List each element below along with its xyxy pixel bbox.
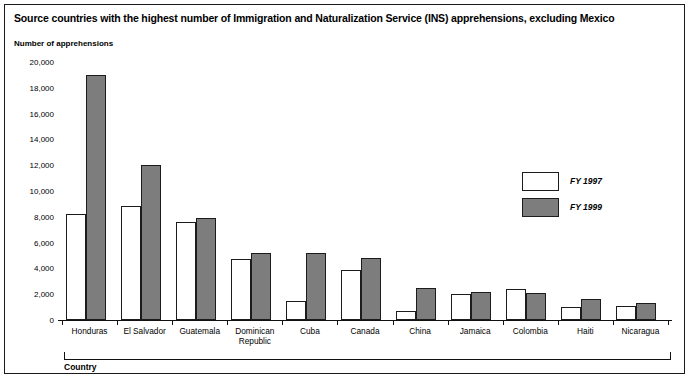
bar-china-fy1999 bbox=[416, 288, 436, 320]
y-axis-tick-label: 8,000 bbox=[12, 212, 54, 221]
bar-guatemala-fy1999 bbox=[196, 218, 216, 320]
bar-canada-fy1999 bbox=[361, 258, 381, 320]
x-axis-tick bbox=[62, 321, 63, 325]
bar-honduras-fy1999 bbox=[86, 75, 106, 320]
x-axis-category-label: Canada bbox=[337, 326, 392, 336]
y-axis-tick-label: 2,000 bbox=[12, 290, 54, 299]
x-axis-category-label: Dominican Republic bbox=[227, 326, 282, 346]
bar-dominican-republic-fy1999 bbox=[251, 253, 271, 320]
x-axis-title: Country bbox=[64, 362, 97, 372]
bar-jamaica-fy1997 bbox=[451, 294, 471, 320]
bar-haiti-fy1999 bbox=[581, 299, 601, 320]
y-axis-tick-label: 14,000 bbox=[12, 135, 54, 144]
x-axis-tick bbox=[227, 321, 228, 325]
x-axis-category-label: El Salvador bbox=[117, 326, 172, 336]
x-axis-category-label: Colombia bbox=[503, 326, 558, 336]
legend-label-fy1997: FY 1997 bbox=[570, 176, 602, 186]
bar-china-fy1997 bbox=[396, 311, 416, 320]
bar-el-salvador-fy1999 bbox=[141, 165, 161, 320]
x-axis-category-label: Haiti bbox=[558, 326, 613, 336]
bar-nicaragua-fy1997 bbox=[616, 306, 636, 320]
x-axis-category-label: Guatemala bbox=[172, 326, 227, 336]
x-axis-tick bbox=[503, 321, 504, 325]
x-axis-tick bbox=[668, 321, 669, 325]
chart-legend: FY 1997 FY 1999 bbox=[522, 172, 642, 224]
x-axis-tick bbox=[117, 321, 118, 325]
y-axis-tick-label: 10,000 bbox=[12, 187, 54, 196]
y-axis-tick-labels: 02,0004,0006,0008,00010,00012,00014,0001… bbox=[10, 0, 54, 384]
y-axis-tick-label: 6,000 bbox=[12, 238, 54, 247]
y-axis-tick-label: 4,000 bbox=[12, 264, 54, 273]
y-axis-tick-label: 12,000 bbox=[12, 161, 54, 170]
bar-haiti-fy1997 bbox=[561, 307, 581, 320]
bar-canada-fy1997 bbox=[341, 270, 361, 320]
x-axis-tick bbox=[448, 321, 449, 325]
x-axis-line bbox=[58, 320, 672, 321]
bar-colombia-fy1997 bbox=[506, 289, 526, 320]
x-axis-category-label: Jamaica bbox=[448, 326, 503, 336]
bar-nicaragua-fy1999 bbox=[636, 303, 656, 320]
x-axis-bracket bbox=[64, 352, 671, 360]
bar-guatemala-fy1997 bbox=[176, 222, 196, 320]
legend-item-fy1997: FY 1997 bbox=[522, 172, 642, 198]
bar-el-salvador-fy1997 bbox=[121, 206, 141, 320]
bar-cuba-fy1997 bbox=[286, 301, 306, 320]
bar-colombia-fy1999 bbox=[526, 293, 546, 320]
x-axis-tick bbox=[558, 321, 559, 325]
chart-page: Source countries with the highest number… bbox=[0, 0, 689, 384]
bar-jamaica-fy1999 bbox=[471, 292, 491, 320]
x-axis-category-label: Honduras bbox=[62, 326, 117, 336]
legend-label-fy1999: FY 1999 bbox=[570, 202, 602, 212]
x-axis-category-label: China bbox=[393, 326, 448, 336]
x-axis-tick bbox=[172, 321, 173, 325]
legend-swatch-fy1999 bbox=[522, 198, 559, 217]
bar-dominican-republic-fy1997 bbox=[231, 259, 251, 320]
x-axis-tick bbox=[613, 321, 614, 325]
x-axis-tick bbox=[393, 321, 394, 325]
y-axis-tick-label: 18,000 bbox=[12, 83, 54, 92]
x-axis-tick bbox=[337, 321, 338, 325]
y-axis-tick-label: 16,000 bbox=[12, 109, 54, 118]
legend-item-fy1999: FY 1999 bbox=[522, 198, 642, 224]
x-axis-tick bbox=[282, 321, 283, 325]
x-axis-category-label: Nicaragua bbox=[613, 326, 668, 336]
chart-title: Source countries with the highest number… bbox=[14, 12, 614, 24]
bar-cuba-fy1999 bbox=[306, 253, 326, 320]
legend-swatch-fy1997 bbox=[522, 172, 559, 191]
y-axis-tick-label: 0 bbox=[12, 316, 54, 325]
x-axis-category-label: Cuba bbox=[282, 326, 337, 336]
bar-honduras-fy1997 bbox=[66, 214, 86, 320]
y-axis-tick-label: 20,000 bbox=[12, 58, 54, 67]
